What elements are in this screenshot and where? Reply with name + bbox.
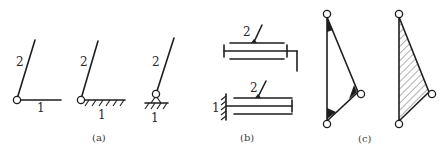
caption-b: (b) — [240, 132, 254, 143]
ternary-link-welded-corners — [323, 10, 364, 127]
panel-b: 2 2 1 (b) — [212, 25, 297, 143]
link-2 — [17, 40, 35, 99]
ground-hatch-icon — [85, 100, 124, 106]
link-1-label: 1 — [98, 108, 106, 122]
triangle-link — [327, 17, 358, 121]
link-1-label: 1 — [37, 101, 45, 115]
link-2 — [81, 41, 98, 99]
link-2-label: 2 — [243, 25, 251, 39]
ternary-link-hatched — [395, 10, 435, 127]
pin-joint-icon — [395, 120, 402, 127]
pin-joint-icon — [152, 90, 159, 97]
pin-joint-icon — [13, 96, 20, 103]
link-1-label: 1 — [212, 101, 220, 115]
weld-joint-icon — [251, 39, 257, 43]
pin-joint-icon — [357, 90, 364, 97]
link-2-label: 2 — [16, 55, 24, 69]
link-2-label: 2 — [250, 81, 258, 95]
weld-corner-icon — [327, 19, 333, 32]
triangle-link-hatched — [399, 17, 429, 121]
prismatic-pair-bar: 2 — [224, 25, 297, 71]
panel-c: (c) — [323, 10, 435, 144]
pin-joint-icon — [77, 96, 84, 103]
pin-joint-icon — [323, 120, 330, 127]
revolute-pair-support: 2 1 — [145, 38, 174, 125]
caption-c: (c) — [358, 133, 372, 144]
revolute-pair-link: 2 1 — [13, 40, 61, 115]
caption-a: (a) — [92, 132, 106, 143]
pin-joint-icon — [323, 10, 330, 17]
kinematic-diagram: 2 1 2 1 — [0, 0, 447, 156]
link-2-label: 2 — [80, 55, 88, 69]
pin-joint-icon — [428, 90, 435, 97]
panel-a: 2 1 2 1 — [13, 38, 174, 143]
prismatic-pair-ground: 2 1 — [212, 81, 292, 120]
revolute-pair-ground: 2 1 — [77, 41, 125, 122]
link-2 — [258, 81, 266, 97]
ground-hatch-icon — [145, 103, 167, 109]
pin-joint-icon — [395, 10, 402, 17]
link-2 — [254, 25, 262, 42]
link-2-label: 2 — [152, 55, 160, 69]
link-1-label: 1 — [151, 111, 159, 125]
